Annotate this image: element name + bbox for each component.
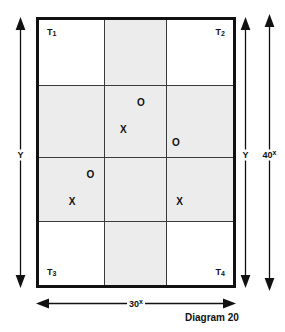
dimension-label-left-y: Y <box>15 150 25 161</box>
corner-label-t2: T2 <box>216 28 225 37</box>
dimension-label-right-y: Y <box>240 150 250 161</box>
grid-horizontal-line-3 <box>39 221 233 222</box>
main-rectangle: T1 T2 T3 T4 O X O O X X <box>36 17 236 288</box>
marker: O <box>172 138 180 148</box>
grid: T1 T2 T3 T4 O X O O X X <box>39 20 233 285</box>
grid-vertical-line-2 <box>166 20 167 285</box>
diagram-canvas: Y T1 T2 T3 T4 O X <box>0 0 285 332</box>
marker: X <box>69 197 76 207</box>
grid-vertical-line-1 <box>104 20 105 285</box>
marker: X <box>176 197 183 207</box>
corner-label-t3: T3 <box>47 268 56 277</box>
diagram-caption: Diagram 20 <box>185 313 239 323</box>
grid-horizontal-line-1 <box>39 85 233 86</box>
dimension-label-bottom-30x: 30x <box>127 298 145 309</box>
corner-label-t4: T4 <box>216 268 225 277</box>
dimension-label-right-40x: 40x <box>261 150 279 161</box>
marker: O <box>87 170 95 180</box>
marker: X <box>120 125 127 135</box>
grid-horizontal-line-2 <box>39 157 233 158</box>
marker: O <box>137 98 145 108</box>
corner-label-t1: T1 <box>47 28 56 37</box>
